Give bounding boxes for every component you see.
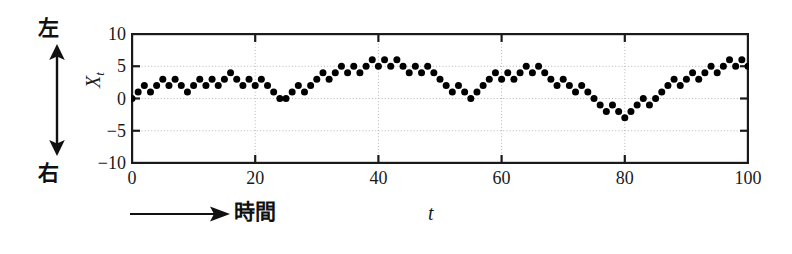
data-point bbox=[289, 89, 296, 96]
data-point bbox=[141, 82, 148, 89]
data-point bbox=[344, 69, 351, 76]
x-tick-label: 100 bbox=[723, 169, 773, 187]
data-point bbox=[196, 76, 203, 83]
data-point bbox=[424, 63, 431, 70]
data-point bbox=[418, 69, 425, 76]
data-point bbox=[640, 95, 647, 102]
data-point bbox=[504, 69, 511, 76]
data-point bbox=[720, 63, 727, 70]
data-point bbox=[584, 89, 591, 96]
data-point bbox=[689, 69, 696, 76]
data-point bbox=[307, 82, 314, 89]
data-point bbox=[708, 63, 715, 70]
data-point bbox=[560, 76, 567, 83]
data-point bbox=[270, 89, 277, 96]
data-point bbox=[246, 76, 253, 83]
y-axis-tick-labels: 1050−5−10 bbox=[88, 0, 126, 254]
data-point bbox=[172, 76, 179, 83]
data-point bbox=[510, 76, 517, 83]
plot-area bbox=[131, 33, 749, 164]
data-point bbox=[615, 108, 622, 115]
data-point bbox=[227, 69, 234, 76]
data-point bbox=[745, 63, 750, 70]
data-point bbox=[350, 63, 357, 70]
data-point bbox=[671, 76, 678, 83]
data-point bbox=[578, 82, 585, 89]
data-point bbox=[363, 63, 370, 70]
direction-label-left: 左 bbox=[38, 18, 59, 39]
y-tick-label: 10 bbox=[92, 25, 126, 43]
data-point bbox=[153, 82, 160, 89]
data-point bbox=[738, 56, 745, 63]
x-axis-tick-labels: 020406080100 bbox=[0, 169, 792, 195]
data-point bbox=[252, 82, 259, 89]
data-point bbox=[190, 82, 197, 89]
data-point bbox=[233, 76, 240, 83]
data-point bbox=[714, 69, 721, 76]
data-point bbox=[283, 95, 290, 102]
data-point bbox=[541, 69, 548, 76]
data-point bbox=[375, 63, 382, 70]
data-point bbox=[381, 56, 388, 63]
data-point bbox=[646, 101, 653, 108]
data-point bbox=[554, 82, 561, 89]
y-tick-label: −5 bbox=[92, 122, 126, 140]
x-tick-label: 0 bbox=[107, 169, 157, 187]
data-point bbox=[301, 89, 308, 96]
x-tick-label: 40 bbox=[353, 169, 403, 187]
data-point bbox=[178, 82, 185, 89]
data-point bbox=[658, 89, 665, 96]
data-point bbox=[529, 69, 536, 76]
data-point bbox=[486, 76, 493, 83]
data-point bbox=[732, 63, 739, 70]
data-point bbox=[400, 63, 407, 70]
data-point bbox=[326, 76, 333, 83]
data-point bbox=[184, 89, 191, 96]
data-point bbox=[276, 95, 283, 102]
scatter-plot-svg bbox=[131, 33, 749, 164]
data-point bbox=[473, 89, 480, 96]
horizontal-arrow-icon bbox=[130, 205, 230, 223]
data-point bbox=[591, 95, 598, 102]
data-point bbox=[443, 82, 450, 89]
data-point bbox=[609, 101, 616, 108]
data-point bbox=[332, 69, 339, 76]
data-point bbox=[683, 76, 690, 83]
data-point bbox=[239, 82, 246, 89]
x-tick-label: 80 bbox=[600, 169, 650, 187]
data-point bbox=[338, 63, 345, 70]
data-point bbox=[319, 69, 326, 76]
y-tick-label: 0 bbox=[92, 90, 126, 108]
data-point bbox=[480, 82, 487, 89]
data-point bbox=[430, 69, 437, 76]
data-point bbox=[295, 82, 302, 89]
data-point bbox=[547, 76, 554, 83]
data-point bbox=[147, 89, 154, 96]
data-point bbox=[406, 69, 413, 76]
data-point bbox=[461, 89, 468, 96]
data-point bbox=[664, 82, 671, 89]
data-point bbox=[634, 101, 641, 108]
data-point bbox=[387, 63, 394, 70]
x-axis-label: t bbox=[428, 203, 434, 223]
data-point bbox=[356, 69, 363, 76]
data-point bbox=[498, 76, 505, 83]
y-tick-label: 5 bbox=[92, 57, 126, 75]
data-point bbox=[603, 108, 610, 115]
data-point bbox=[215, 82, 222, 89]
data-point bbox=[701, 69, 708, 76]
data-point bbox=[621, 114, 628, 121]
data-point bbox=[523, 63, 530, 70]
random-walk-figure: 左 右 Xt 1050−5−10 020406080100 時間 t bbox=[0, 0, 792, 254]
x-tick-label: 60 bbox=[477, 169, 527, 187]
data-point bbox=[572, 89, 579, 96]
data-point bbox=[566, 82, 573, 89]
data-point bbox=[652, 95, 659, 102]
data-point bbox=[135, 89, 142, 96]
data-point bbox=[165, 82, 172, 89]
data-point bbox=[313, 76, 320, 83]
data-point bbox=[437, 76, 444, 83]
data-point bbox=[597, 101, 604, 108]
data-point bbox=[131, 95, 136, 102]
data-point bbox=[677, 82, 684, 89]
